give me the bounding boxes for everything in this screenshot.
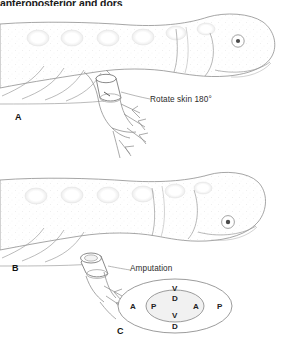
eye-pupil	[226, 220, 230, 224]
amputation-annotation: Amputation	[130, 264, 172, 273]
amputation-cuff	[81, 253, 109, 278]
axis-inner-right: A	[193, 302, 199, 311]
skin-cuff-graft	[96, 74, 121, 102]
rotate-skin-annotation: Rotate skin 180°	[150, 95, 212, 104]
panel-label-a: A	[15, 112, 22, 122]
axis-inner-left: P	[151, 302, 156, 311]
axis-outer-bottom: D	[172, 322, 178, 331]
axis-inner-top: D	[172, 294, 178, 303]
axis-outer-left: A	[130, 302, 136, 311]
axis-inner-bottom: V	[172, 311, 177, 320]
amputation-surface	[85, 255, 98, 261]
axis-outer-right: P	[217, 302, 222, 311]
panel-label-b: B	[12, 263, 19, 273]
figure-illustration	[0, 0, 282, 344]
panel-label-c: C	[117, 326, 124, 336]
panel-a-salamander	[0, 14, 275, 158]
axis-outer-top: V	[172, 284, 177, 293]
eye-pupil	[236, 39, 240, 43]
